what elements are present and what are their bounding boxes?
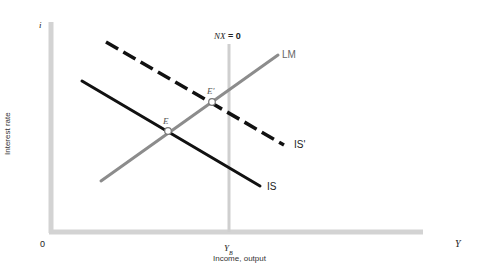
y-axis-label: Interest rate [3,112,12,155]
yb-subscript: B [229,250,233,256]
equilibrium-point-e-prime [209,99,216,106]
lm-label: LM [282,49,296,60]
point-e-prime-label: E' [207,86,214,96]
nx-zero-label: NX = 0 [214,31,241,41]
nx-symbol: NX [214,31,226,41]
x-axis-label: Income, output [213,254,266,263]
is-prime-label: IS' [294,139,305,150]
is-label: IS [267,181,276,192]
lm-curve [101,55,278,181]
nx-equals-zero: = 0 [226,31,241,41]
x-axis-symbol: Y [455,238,461,249]
point-e-label: E [163,116,169,126]
equilibrium-point-e [165,128,172,135]
is-curve [82,81,260,186]
is-prime-curve [106,42,284,145]
origin-label: 0 [40,239,45,249]
yb-tick-label: YB [224,237,233,256]
y-axis-symbol: i [39,20,42,30]
